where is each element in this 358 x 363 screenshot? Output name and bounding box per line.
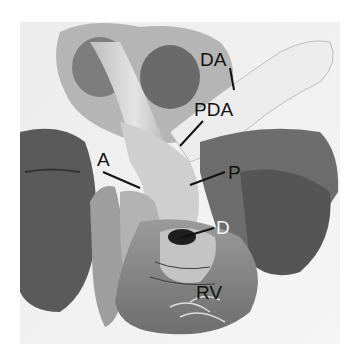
label-pda: PDA <box>194 100 233 119</box>
label-p: P <box>228 163 241 182</box>
label-a: A <box>97 150 110 169</box>
label-d: D <box>216 218 230 237</box>
heart-specimen-photo <box>20 22 340 344</box>
label-rv: RV <box>196 283 222 302</box>
specimen-illustration <box>20 22 340 344</box>
label-da: DA <box>200 50 226 69</box>
